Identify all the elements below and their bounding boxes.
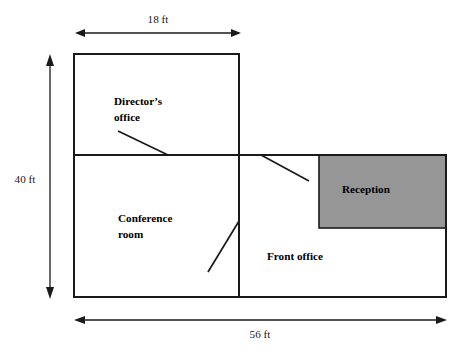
arrowhead-down-icon [46, 287, 54, 299]
dimension-left-label: 40 ft [15, 173, 37, 185]
dimension-top-label: 18 ft [148, 13, 170, 25]
arrowhead-right-icon [231, 29, 241, 37]
floor-plan-diagram: 18 ft 40 ft 56 ft [0, 0, 468, 356]
arrowhead-right-icon [436, 316, 447, 324]
dimension-left-height: 40 ft [15, 54, 54, 299]
dimension-top-width: 18 ft [75, 13, 241, 37]
conference-room-label-line2: room [118, 228, 144, 240]
arrowhead-left-icon [74, 316, 85, 324]
directors-office-label-line2: office [114, 111, 140, 123]
reception-label: Reception [342, 183, 391, 195]
conference-room-fill [74, 155, 239, 297]
dimension-bottom-label: 56 ft [250, 328, 272, 340]
floor-plan-canvas: 18 ft 40 ft 56 ft [0, 0, 468, 356]
arrowhead-up-icon [46, 54, 54, 66]
dimension-bottom-width: 56 ft [74, 316, 447, 340]
directors-office-label-line1: Director’s [114, 95, 163, 107]
front-office-label: Front office [267, 250, 323, 262]
conference-room-label-line1: Conference [118, 212, 173, 224]
arrowhead-left-icon [75, 29, 85, 37]
